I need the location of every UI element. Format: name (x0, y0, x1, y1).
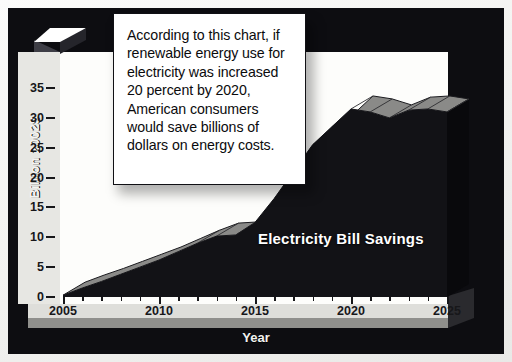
x-axis-minor-tick (313, 296, 315, 301)
x-axis-tick-label: 2010 (145, 304, 173, 318)
x-axis-major-tick (351, 296, 353, 304)
x-axis-title: Year (0, 330, 512, 345)
y-axis-tick-label: 15 (4, 200, 44, 214)
x-axis-tick-label: 2015 (241, 304, 269, 318)
y-axis-tick-mark (46, 236, 55, 238)
x-axis-minor-tick (409, 296, 411, 301)
y-axis-tick-mark (46, 87, 55, 89)
y-axis-tick-label: 25 (4, 141, 44, 155)
y-axis-tick-label: 0 (4, 290, 44, 304)
y-axis-tick-mark (46, 147, 55, 149)
y-axis-tick-mark (46, 117, 55, 119)
x-axis-minor-tick (140, 296, 142, 301)
chart-figure: Billion 2002$ 05101520253035 20052010201… (0, 0, 512, 362)
x-axis-major-tick (63, 296, 65, 304)
x-axis-tick-label: 2025 (433, 304, 461, 318)
y-axis-tick-mark (46, 206, 55, 208)
floor-front-face (28, 318, 448, 328)
x-axis-minor-tick (274, 296, 276, 301)
x-axis-minor-tick (332, 296, 334, 301)
x-axis-major-tick (255, 296, 257, 304)
x-axis-minor-tick (370, 296, 372, 301)
x-axis-tick-label: 2005 (49, 304, 77, 318)
x-axis-minor-tick (389, 296, 391, 301)
x-axis-minor-tick (197, 296, 199, 301)
y-axis-tick-label: 35 (4, 81, 44, 95)
x-axis-minor-tick (178, 296, 180, 301)
y-axis-tick-mark (46, 177, 55, 179)
x-axis-minor-tick (217, 296, 219, 301)
y-axis-tick-mark (46, 266, 55, 268)
x-axis-minor-tick (428, 296, 430, 301)
series-label: Electricity Bill Savings (258, 230, 424, 247)
x-axis-tick-label: 2020 (337, 304, 365, 318)
y-axis-tick-label: 10 (4, 230, 44, 244)
x-axis-major-tick (447, 296, 449, 304)
x-axis-minor-tick (293, 296, 295, 301)
x-axis-minor-tick (121, 296, 123, 301)
x-axis-minor-tick (236, 296, 238, 301)
callout-box: According to this chart, if renewable en… (113, 13, 306, 185)
y-axis-tick-label: 30 (4, 111, 44, 125)
callout-text: According to this chart, if renewable en… (127, 26, 294, 155)
y-axis-tick-label: 20 (4, 171, 44, 185)
x-axis-minor-tick (101, 296, 103, 301)
x-axis-major-tick (159, 296, 161, 304)
x-axis-minor-tick (82, 296, 84, 301)
y-axis-tick-mark (46, 296, 55, 298)
y-axis-tick-label: 5 (4, 260, 44, 274)
